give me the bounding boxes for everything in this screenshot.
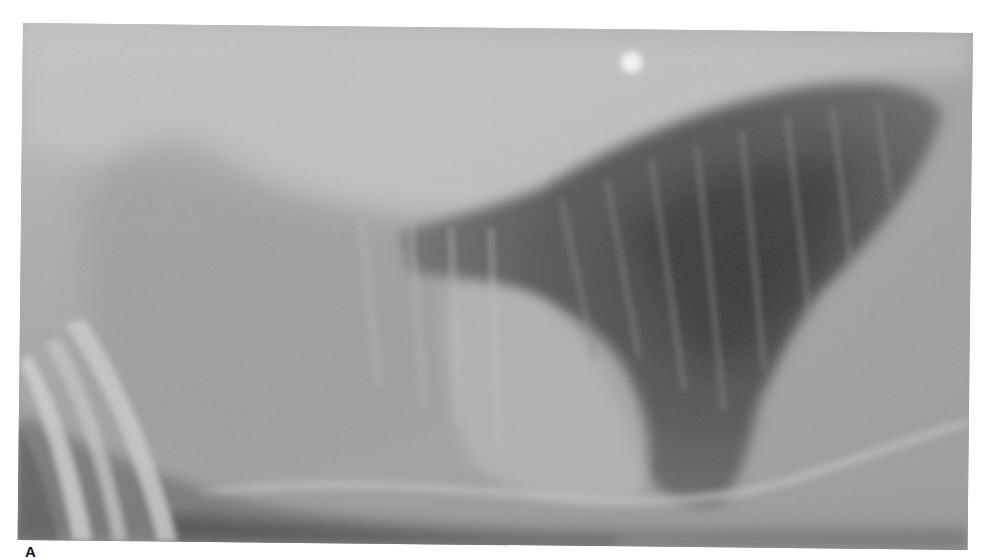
radiograph-image: [18, 23, 973, 550]
radiograph-rendering: [18, 23, 973, 550]
film-grain: [18, 23, 973, 550]
panel-label: A: [25, 544, 36, 559]
